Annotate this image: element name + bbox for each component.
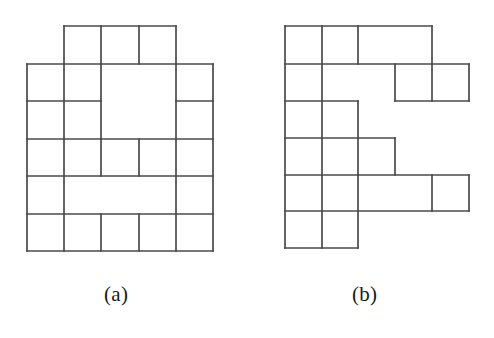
polyomino-figure-board [0,0,494,338]
panel-a-caption: (a) [104,282,128,307]
figure-background [0,0,494,338]
polyomino-figure-svg [0,0,494,338]
panel-b-caption: (b) [352,282,377,307]
